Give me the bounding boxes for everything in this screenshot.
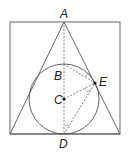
point-C <box>62 97 65 100</box>
label-A: A <box>59 7 68 21</box>
geometry-diagram: A B C D E <box>0 0 128 153</box>
label-D: D <box>59 137 68 151</box>
label-B: B <box>54 69 62 83</box>
label-C: C <box>54 93 63 107</box>
segment-BE <box>64 64 95 83</box>
label-E: E <box>99 75 108 89</box>
point-E <box>93 81 96 84</box>
